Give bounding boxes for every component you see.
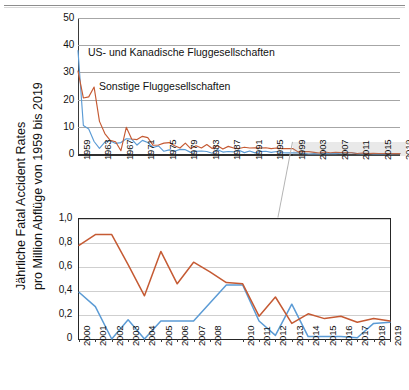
x-axis-tick-label: 2008	[213, 326, 223, 346]
x-axis-tick-label: 2013	[295, 326, 305, 346]
x-axis-tick-label: 1975	[168, 140, 178, 160]
y-axis-tick-label: 40	[50, 40, 74, 50]
x-axis-tick-label: 2007	[197, 326, 207, 346]
x-axis-tick-label: 2003	[131, 326, 141, 346]
x-axis-tick-label: 2000	[82, 326, 92, 346]
legend-label-other-airlines: Sonstige Fluggesellschaften	[99, 81, 230, 92]
series-layer	[79, 219, 390, 339]
x-axis-tick-mark	[210, 339, 211, 342]
y-axis-tick-label: 0	[50, 149, 74, 159]
x-axis-tick-label: 2005	[164, 326, 174, 346]
x-axis-tick-label: 2019	[393, 326, 403, 346]
x-axis-tick-mark	[390, 339, 391, 342]
x-axis-tick-label: 2015	[328, 326, 338, 346]
x-axis-tick-label: 1959	[82, 140, 92, 160]
x-axis-tick-mark	[374, 339, 375, 342]
data-series-line	[78, 51, 400, 154]
x-axis-tick-mark	[341, 339, 342, 342]
x-axis-tick-label: 2017	[360, 326, 370, 346]
x-axis-tick-mark	[259, 339, 260, 342]
x-axis-tick-label: 1999	[297, 140, 307, 160]
y-axis-tick-label: 0,4	[46, 285, 72, 295]
x-axis-tick-label: 2003	[318, 140, 328, 160]
x-axis-tick-label: 2011	[361, 140, 371, 160]
x-axis-tick-mark	[325, 339, 326, 342]
x-axis-tick-label: 2004	[147, 326, 157, 346]
x-axis-tick-mark	[161, 339, 162, 342]
x-axis-tick-label: 1991	[254, 140, 264, 160]
x-axis-tick-label: 2018	[377, 326, 387, 346]
x-axis-tick-label: 1979	[189, 140, 199, 160]
x-axis-tick-mark	[243, 339, 244, 342]
x-axis-tick-label: 1971	[146, 140, 156, 160]
y-axis-tick-label: 0,6	[46, 261, 72, 271]
x-axis-tick-mark	[79, 339, 80, 342]
y-axis-tick-label: 0,8	[46, 237, 72, 247]
x-axis-tick-label: 2006	[180, 326, 190, 346]
x-axis-tick-label: 2010	[246, 326, 256, 346]
detail-plot-area	[78, 218, 391, 340]
y-axis-tick-label: 10	[50, 122, 74, 132]
y-axis-tick-label: 0	[46, 333, 72, 343]
x-axis-tick-label: 2002	[115, 326, 125, 346]
x-axis-tick-label: 1963	[103, 140, 113, 160]
y-axis-tick-label: 50	[50, 13, 74, 23]
x-axis-tick-label: 2007	[340, 140, 350, 160]
legend-label-us-canada: US- und Kanadische Fluggesellschaften	[88, 47, 275, 58]
x-axis-tick-label: 1995	[275, 140, 285, 160]
chart-page: Jährliche Fatal Accident Rates pro Milli…	[0, 0, 409, 390]
x-axis-tick-mark	[194, 339, 195, 342]
y-axis-tick-label: 30	[50, 67, 74, 77]
x-axis-tick-label: 2014	[311, 326, 321, 346]
x-axis-tick-label: 2011	[262, 326, 272, 346]
x-axis-tick-mark	[308, 339, 309, 342]
overview-chart: 0102030405019591963196719711975197919831…	[0, 0, 409, 200]
data-series-line	[79, 235, 390, 324]
x-axis-tick-mark	[128, 339, 129, 342]
x-axis-tick-label: 1967	[125, 140, 135, 160]
y-axis-tick-label: 0,2	[46, 309, 72, 319]
x-axis-tick-label: 2012	[278, 326, 288, 346]
x-axis-tick-label: 2015	[383, 140, 393, 160]
detail-chart: 00,20,40,60,81,0200020012002200320042005…	[0, 200, 409, 390]
y-axis-tick-label: 1,0	[46, 213, 72, 223]
x-axis-tick-label: 2001	[98, 326, 108, 346]
y-axis-tick-label: 20	[50, 95, 74, 105]
x-axis-tick-label: 2016	[344, 326, 354, 346]
x-axis-tick-label: 1983	[211, 140, 221, 160]
x-axis-tick-mark	[292, 339, 293, 342]
x-axis-tick-label: 1987	[232, 140, 242, 160]
